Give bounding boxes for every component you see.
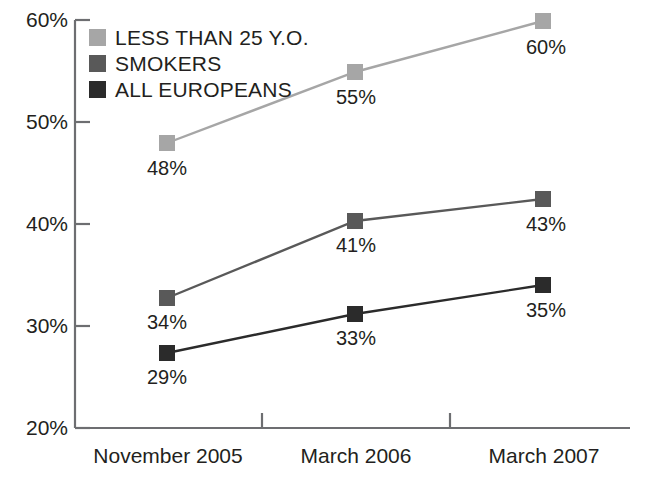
legend-item-less-than-25-yo: LESS THAN 25 Y.O. (89, 26, 309, 49)
legend-label: LESS THAN 25 Y.O. (115, 26, 309, 49)
data-label: 33% (336, 327, 376, 349)
legend-swatch-icon (89, 55, 106, 72)
data-label: 48% (147, 157, 187, 179)
data-point-marker (159, 135, 175, 151)
data-label: 35% (526, 299, 566, 321)
x-axis-label-march-2006: March 2006 (301, 444, 412, 467)
y-axis-label-20: 20% (26, 416, 68, 439)
x-axis-label-november-2005: November 2005 (93, 444, 242, 467)
legend-swatch-icon (89, 29, 106, 46)
x-axis-ticks (262, 413, 450, 428)
y-axis-labels: 60% 50% 40% 30% 20% (26, 8, 68, 439)
data-point-marker (347, 213, 363, 229)
data-point-marker (159, 290, 175, 306)
data-label: 41% (336, 234, 376, 256)
data-point-marker (535, 13, 551, 29)
data-label: 34% (147, 311, 187, 333)
y-axis-label-50: 50% (26, 110, 68, 133)
data-label: 29% (147, 366, 187, 388)
legend-item-all-europeans: ALL EUROPEANS (89, 78, 292, 101)
y-axis-label-60: 60% (26, 8, 68, 31)
y-axis-label-30: 30% (26, 314, 68, 337)
data-point-marker (347, 306, 363, 322)
y-axis-label-40: 40% (26, 212, 68, 235)
data-point-marker (347, 64, 363, 80)
data-label: 60% (526, 36, 566, 58)
data-point-marker (535, 277, 551, 293)
legend-label: SMOKERS (115, 52, 221, 75)
y-axis-ticks (75, 20, 90, 428)
legend-swatch-icon (89, 81, 106, 98)
legend: LESS THAN 25 Y.O. SMOKERS ALL EUROPEANS (89, 26, 309, 101)
data-point-marker (159, 345, 175, 361)
data-point-marker (535, 191, 551, 207)
chart-container: 60% 50% 40% 30% 20% November 2005 March … (0, 0, 656, 492)
x-axis-label-march-2007: March 2007 (489, 444, 600, 467)
legend-label: ALL EUROPEANS (115, 78, 292, 101)
legend-item-smokers: SMOKERS (89, 52, 221, 75)
x-axis-labels: November 2005 March 2006 March 2007 (93, 444, 599, 467)
data-label: 55% (336, 86, 376, 108)
line-chart: 60% 50% 40% 30% 20% November 2005 March … (0, 0, 656, 492)
data-label: 43% (526, 213, 566, 235)
series-all-europeans: 29% 33% 35% (147, 277, 566, 388)
